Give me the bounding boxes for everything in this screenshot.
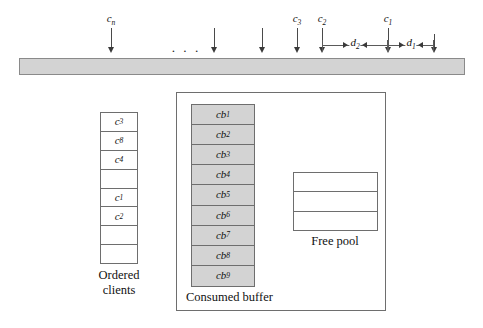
ordered-clients-cell: c3 — [101, 113, 137, 132]
consumed-buffer-cell: cb2 — [192, 125, 254, 145]
ordered-clients-cell — [101, 226, 137, 245]
measure-d2: d2 — [322, 40, 388, 51]
ordered-clients-stack: c3c8c4c1c2 — [100, 112, 138, 264]
timeline-ellipsis: · · · — [171, 44, 201, 57]
ordered-clients-cell: c4 — [101, 151, 137, 170]
consumed-buffer-cell: cb3 — [192, 145, 254, 165]
consumed-buffer-cell: cb6 — [192, 206, 254, 226]
consumed-buffer-cell: cb5 — [192, 185, 254, 205]
tick-c2-label: c2 — [318, 12, 327, 27]
consumed-buffer-cell: cb7 — [192, 226, 254, 246]
measure-d2-label: d2 — [349, 36, 360, 51]
timeline-bar — [19, 58, 465, 75]
free-pool-caption: Free pool — [311, 234, 359, 249]
ordered-clients-caption: Ordered clients — [99, 268, 140, 298]
free-pool-stack — [293, 172, 378, 231]
tick-c3-shaft — [297, 28, 298, 48]
tick-unlabeled-2-arrowhead — [259, 47, 265, 53]
free-pool-cell — [294, 173, 377, 192]
tick-unlabeled-1-arrow-icon — [210, 28, 219, 54]
ordered-clients-cell — [101, 245, 137, 264]
tick-cn-label: cn — [107, 12, 116, 27]
consumed-buffer-cell: cb1 — [192, 105, 254, 125]
measure-d2-arrowhead-left-icon — [362, 42, 367, 48]
ordered-clients-caption-line1: Ordered — [99, 268, 140, 283]
consumed-buffer-caption: Consumed buffer — [186, 290, 273, 305]
ordered-clients-cell: c2 — [101, 207, 137, 226]
consumed-buffer-stack: cb1cb2cb3cb4cb5cb6cb7cb8cb9 — [191, 104, 255, 287]
tick-unlabeled-3-shaft — [434, 34, 435, 48]
measure-d2-arrowhead-right-icon — [343, 42, 348, 48]
measure-d1-arrowhead-left-icon — [418, 42, 423, 48]
ordered-clients-cell: c8 — [101, 132, 137, 151]
free-pool-cell — [294, 192, 377, 211]
consumed-buffer-cell: cb9 — [192, 266, 254, 286]
tick-c3-arrowhead — [294, 47, 300, 53]
tick-unlabeled-1-shaft — [214, 28, 215, 48]
consumed-buffer-cell: cb8 — [192, 246, 254, 266]
tick-cn-arrowhead — [108, 47, 114, 53]
consumed-buffer-cell: cb4 — [192, 165, 254, 185]
tick-c3-label: c3 — [293, 12, 302, 27]
tick-cn-arrow-icon — [107, 28, 116, 54]
tick-cn-shaft — [111, 28, 112, 48]
tick-c1-label: c1 — [384, 12, 393, 27]
tick-c3-arrow-icon — [293, 28, 302, 54]
figure-canvas: · · · cnc3c2c1 d2d1 c3c8c4c1c2 Ordered c… — [0, 0, 483, 328]
measure-d1-arrowhead-right-icon — [399, 42, 404, 48]
measure-d1-label: d1 — [405, 36, 416, 51]
measure-d1: d1 — [388, 40, 434, 51]
ordered-clients-caption-line2: clients — [99, 283, 140, 298]
free-pool-cell — [294, 212, 377, 231]
tick-unlabeled-1-arrowhead — [211, 47, 217, 53]
tick-unlabeled-2-shaft — [262, 28, 263, 48]
ordered-clients-cell — [101, 170, 137, 189]
ordered-clients-cell: c1 — [101, 189, 137, 208]
tick-unlabeled-2-arrow-icon — [258, 28, 267, 54]
